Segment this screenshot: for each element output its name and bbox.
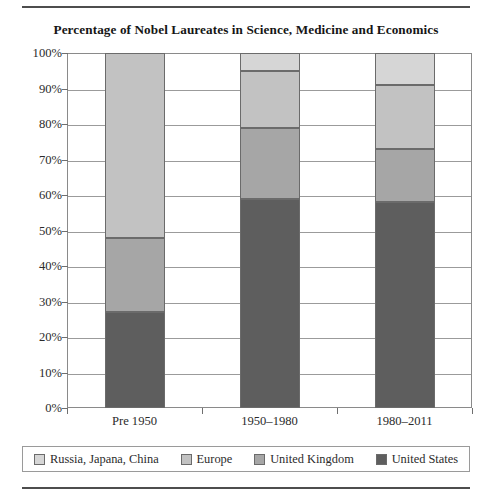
bar-group-2 (202, 53, 337, 408)
x-axis-tick (472, 408, 473, 414)
y-axis-tick-label: 20% (18, 331, 62, 344)
y-axis-tick-label: 0% (18, 402, 62, 415)
bar-segment[interactable] (240, 53, 300, 71)
plot-wrapper: 100%90%80%70%60%50%40%30%20%10%0% Pre 19… (0, 0, 492, 440)
bottom-rule (22, 487, 470, 489)
stacked-bar[interactable] (240, 53, 300, 408)
legend-label: United States (392, 452, 458, 467)
bar-segment[interactable] (240, 199, 300, 408)
y-axis-tick-label: 90% (18, 83, 62, 96)
bar-segment[interactable] (105, 312, 165, 408)
y-axis-tick-label: 100% (18, 47, 62, 60)
stacked-bar[interactable] (375, 53, 435, 408)
y-axis-tick-label: 40% (18, 260, 62, 273)
bar-segment[interactable] (105, 238, 165, 313)
y-axis-tick-label: 50% (18, 225, 62, 238)
legend-swatch-icon (376, 454, 387, 465)
y-axis-tick-label: 80% (18, 118, 62, 131)
x-axis-tick-label: 1980–2011 (337, 414, 472, 436)
legend-item-4[interactable]: United States (376, 452, 458, 467)
stacked-bar[interactable] (105, 53, 165, 408)
bar-segment[interactable] (375, 53, 435, 85)
bar-segment[interactable] (105, 53, 165, 238)
legend-label: Europe (197, 452, 233, 467)
bar-segment[interactable] (240, 71, 300, 128)
bar-segment[interactable] (375, 85, 435, 149)
x-axis-tick-label: Pre 1950 (67, 414, 202, 436)
bars-layer (67, 53, 472, 408)
y-axis-tick-label: 70% (18, 154, 62, 167)
bar-segment[interactable] (375, 202, 435, 408)
legend-label: United Kingdom (270, 452, 354, 467)
legend-label: Russia, Japana, China (50, 452, 159, 467)
y-axis-tick-label: 30% (18, 296, 62, 309)
x-axis-tick-label: 1950–1980 (202, 414, 337, 436)
y-axis-tick-label: 60% (18, 189, 62, 202)
x-axis-labels: Pre 19501950–19801980–2011 (67, 414, 472, 436)
bar-segment[interactable] (375, 149, 435, 202)
y-axis-tick-label: 10% (18, 367, 62, 380)
bar-segment[interactable] (240, 128, 300, 199)
chart-legend: Russia, Japana, ChinaEuropeUnited Kingdo… (22, 446, 470, 472)
y-axis-labels: 100%90%80%70%60%50%40%30%20%10%0% (12, 53, 62, 408)
legend-item-3[interactable]: United Kingdom (254, 452, 354, 467)
legend-swatch-icon (181, 454, 192, 465)
legend-swatch-icon (34, 454, 45, 465)
chart-page: Percentage of Nobel Laureates in Science… (0, 0, 492, 497)
legend-swatch-icon (254, 454, 265, 465)
legend-item-1[interactable]: Russia, Japana, China (34, 452, 159, 467)
bar-group-1 (67, 53, 202, 408)
legend-item-2[interactable]: Europe (181, 452, 233, 467)
bar-group-3 (337, 53, 472, 408)
